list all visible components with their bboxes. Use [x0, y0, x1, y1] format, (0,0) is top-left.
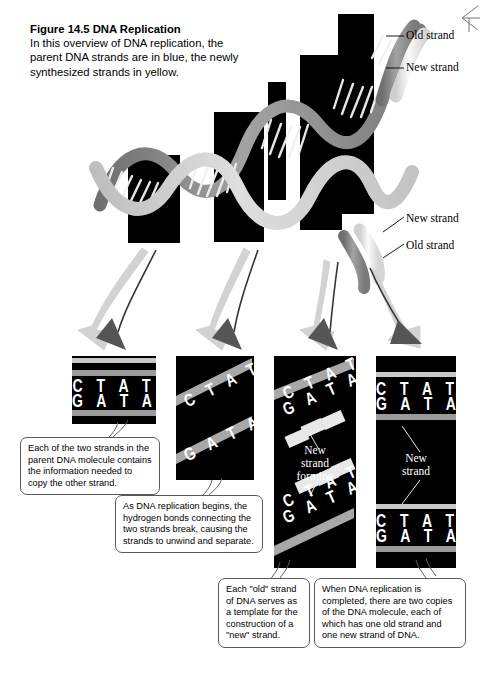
- bubble-1-text: Each of the two strands in the parent DN…: [28, 443, 153, 489]
- panel4-note-line-1: New: [376, 452, 456, 465]
- panel-4-two-copies: C T A T G A T A New strand C T A T G A T…: [376, 356, 456, 568]
- label-new-strand-lower: New strand: [406, 212, 459, 224]
- panel4-new-band-b: [376, 504, 456, 509]
- figure-canvas: Figure 14.5DNA Replication In this overv…: [0, 0, 484, 673]
- helix-lower-turn: [344, 230, 378, 288]
- panel1-bases-bottom: G A T A: [72, 392, 156, 410]
- dna-helix-illustration: [0, 0, 484, 360]
- panel1-new-band-top: [72, 358, 156, 363]
- panel4-old-band-b: [376, 546, 456, 552]
- bubble-4-text: When DNA replication is completed, there…: [322, 584, 459, 642]
- label-old-strand-upper: Old strand: [406, 29, 454, 41]
- panel4-new-strand-label: New strand: [376, 452, 456, 478]
- panel3-note-line-3: forming: [274, 470, 356, 483]
- panel-1-parent-duplex: C T A T G A T A: [72, 356, 156, 424]
- bubble-1: Each of the two strands in the parent DN…: [20, 437, 160, 495]
- bubble-3-text: Each "old" strand of DNA serves as a tem…: [226, 584, 303, 642]
- crop-registration-mark: [456, 2, 484, 36]
- label-old-strand-lower: Old strand: [406, 239, 454, 251]
- bubble-2-text: As DNA replication begins, the hydrogen …: [123, 501, 256, 547]
- panel3-note-line-1: New: [274, 444, 356, 457]
- panel3-new-strand-forming-label: New strand forming: [274, 444, 356, 483]
- panel-3-new-strand-forming: C T A T G A T A C T A T G A T A New stra…: [274, 356, 356, 568]
- panel4-bases-bottom-b: G A T A: [376, 527, 456, 545]
- panel1-old-band-lower: [72, 410, 156, 416]
- panel4-note-line-2: strand: [376, 465, 456, 478]
- label-new-strand-upper: New strand: [406, 61, 459, 73]
- bubble-3: Each "old" strand of DNA serves as a tem…: [218, 578, 310, 648]
- bubble-2: As DNA replication begins, the hydrogen …: [115, 495, 263, 553]
- bubble-4: When DNA replication is completed, there…: [314, 578, 466, 648]
- panel-2-unwinding: C T A T G A T A: [176, 356, 254, 480]
- panel3-note-line-2: strand: [274, 457, 356, 470]
